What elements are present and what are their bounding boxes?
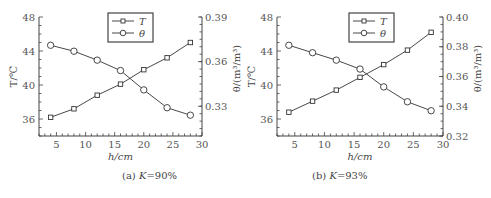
circle-marker xyxy=(309,50,315,56)
x-axis-label: h/cm xyxy=(108,151,133,162)
left-y-tick-label: 48 xyxy=(260,12,273,23)
left-y-tick-label: 44 xyxy=(260,46,273,57)
legend-circle-icon xyxy=(120,30,126,36)
right-y-axis-label: θ/(m³/m³) xyxy=(472,45,483,93)
right-y-tick-label: 0.40 xyxy=(446,12,468,23)
square-marker xyxy=(165,56,169,60)
square-marker xyxy=(48,115,52,119)
right-y-tick-label: 0.33 xyxy=(205,101,227,112)
left-y-tick-label: 48 xyxy=(22,12,35,23)
legend-circle-icon xyxy=(361,30,367,36)
x-tick-label: 15 xyxy=(348,139,361,150)
chart-panel-a: 51015202530h/cm36404448T/℃0.330.360.39θ/… xyxy=(0,0,246,198)
caption-value: =93% xyxy=(337,170,368,181)
circle-marker xyxy=(286,42,292,48)
square-marker xyxy=(310,99,314,103)
right-y-tick-label: 0.39 xyxy=(205,12,227,23)
square-marker xyxy=(142,68,146,72)
legend: Tθ xyxy=(349,13,394,42)
legend-square-icon xyxy=(362,19,366,23)
right-y-tick-label: 0.36 xyxy=(205,56,227,67)
right-y-axis-label: θ/(m³/m³) xyxy=(231,45,242,93)
x-axis-label: h/cm xyxy=(348,151,373,162)
legend: Tθ xyxy=(108,13,153,42)
chart-a-plot: 51015202530h/cm36404448T/℃0.330.360.39θ/… xyxy=(0,0,246,165)
legend-square-icon xyxy=(121,19,125,23)
x-tick-label: 30 xyxy=(196,139,209,150)
square-marker xyxy=(405,48,409,52)
left-y-axis-label: T/℃ xyxy=(8,66,19,87)
caption-prefix: (b) xyxy=(312,170,329,181)
chart-a-caption: (a) K=90% xyxy=(122,170,177,181)
x-tick-label: 20 xyxy=(377,139,390,150)
square-marker xyxy=(334,88,338,92)
circle-marker xyxy=(357,66,363,72)
circle-marker xyxy=(47,42,53,48)
series-T xyxy=(48,40,192,119)
circle-marker xyxy=(333,57,339,63)
left-y-tick-label: 36 xyxy=(22,114,35,125)
square-marker xyxy=(72,107,76,111)
circle-marker xyxy=(164,105,170,111)
circle-marker xyxy=(187,112,193,118)
left-y-tick-label: 36 xyxy=(260,114,273,125)
square-marker xyxy=(188,40,192,44)
square-marker xyxy=(429,30,433,34)
circle-marker xyxy=(428,108,434,114)
x-tick-label: 20 xyxy=(137,139,150,150)
circle-marker xyxy=(117,67,123,73)
left-y-tick-label: 44 xyxy=(22,46,35,57)
right-y-tick-label: 0.38 xyxy=(446,41,468,52)
x-tick-label: 5 xyxy=(292,139,298,150)
x-tick-label: 15 xyxy=(108,139,121,150)
square-marker xyxy=(118,82,122,86)
circle-marker xyxy=(381,84,387,90)
chart-panel-b: 51015202530h/cm36404448T/℃0.320.340.360.… xyxy=(245,0,491,198)
square-marker xyxy=(382,62,386,66)
left-y-axis-label: T/℃ xyxy=(246,66,257,87)
caption-variable: K xyxy=(329,170,336,181)
square-marker xyxy=(358,75,362,79)
right-y-tick-label: 0.34 xyxy=(446,101,468,112)
x-tick-label: 10 xyxy=(318,139,331,150)
circle-marker xyxy=(404,99,410,105)
circle-marker xyxy=(71,48,77,54)
circle-marker xyxy=(141,87,147,93)
chart-b-plot: 51015202530h/cm36404448T/℃0.320.340.360.… xyxy=(245,0,491,165)
caption-value: =90% xyxy=(146,170,177,181)
x-tick-label: 5 xyxy=(53,139,59,150)
left-y-tick-label: 40 xyxy=(260,80,273,91)
legend-label: θ xyxy=(380,28,386,39)
x-tick-label: 25 xyxy=(167,139,180,150)
caption-prefix: (a) xyxy=(122,170,139,181)
x-tick-label: 10 xyxy=(79,139,92,150)
chart-b-caption: (b) K=93% xyxy=(312,170,367,181)
legend-label: θ xyxy=(139,28,145,39)
square-marker xyxy=(287,110,291,114)
circle-marker xyxy=(94,57,100,63)
right-y-tick-label: 0.32 xyxy=(446,131,468,142)
x-tick-label: 25 xyxy=(407,139,420,150)
square-marker xyxy=(95,93,99,97)
right-y-tick-label: 0.36 xyxy=(446,71,468,82)
left-y-tick-label: 40 xyxy=(22,80,35,91)
series-theta xyxy=(47,42,193,118)
